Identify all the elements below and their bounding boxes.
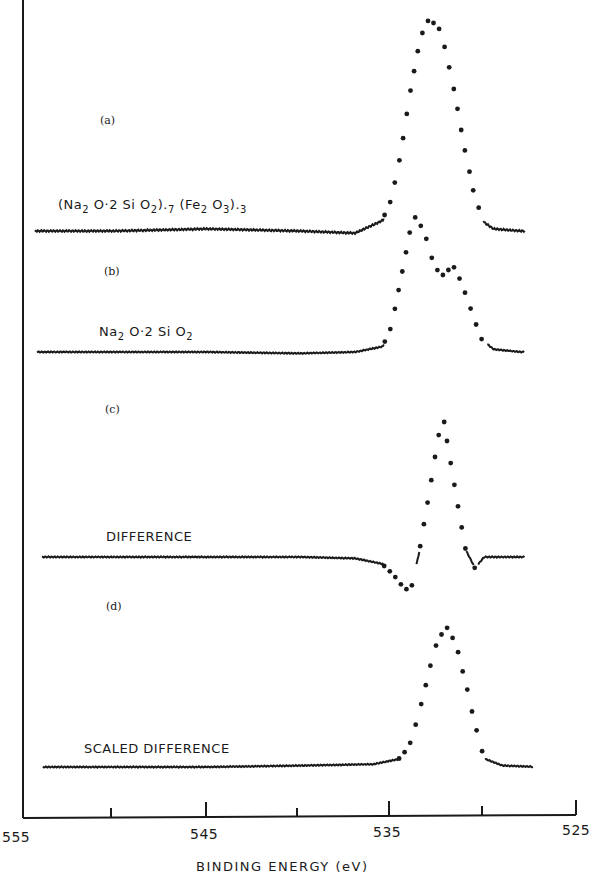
spectrum-data-point [470, 709, 475, 714]
spectrum-baseline [478, 556, 524, 564]
spectrum-data-point [382, 564, 387, 569]
spectrum-data-point [471, 188, 476, 193]
spectrum-data-point [474, 728, 479, 733]
x-tick-label-545: 545 [190, 826, 218, 842]
spectrum-data-point [445, 625, 450, 630]
spectra-traces [35, 19, 533, 768]
spectrum-baseline [35, 219, 384, 234]
spectrum-data-point [425, 500, 430, 505]
trace-label-b: Na2 O·2 Si O2 [99, 324, 193, 342]
spectrum-data-point [424, 236, 429, 241]
spectrum-data-point [439, 632, 444, 637]
trace-label-d: SCALED DIFFERENCE [84, 741, 230, 756]
spectrum-data-point [423, 683, 428, 688]
spectrum-data-point [436, 433, 441, 438]
formula-sub: 7 [168, 204, 175, 215]
spectrum-data-point [400, 269, 405, 274]
spectrum-baseline [466, 551, 473, 565]
spectrum-data-point [413, 722, 418, 727]
spectrum-data-point [442, 45, 447, 50]
spectrum-data-point [392, 180, 397, 185]
spectrum-data-point [410, 583, 415, 588]
spectrum-data-point [456, 504, 461, 509]
spectrum-data-point [433, 455, 438, 460]
spectrum-baseline [42, 556, 383, 564]
x-axis-line [23, 815, 576, 818]
trace-label-a: (Na2 O·2 Si O2).7 (Fe2 O3).3 [58, 197, 247, 215]
spectrum-data-point [402, 750, 407, 755]
spectrum-data-point [455, 106, 460, 111]
spectrum-data-point [472, 565, 477, 570]
spectrum-data-point [463, 290, 468, 295]
formula-part: ). [230, 197, 240, 212]
spectrum-data-point [452, 265, 457, 270]
formula-sub: 2 [186, 331, 193, 342]
spectrum-data-point [418, 223, 423, 228]
spectrum-data-point [397, 158, 402, 163]
formula-sub: 2 [118, 331, 125, 342]
spectrum-data-point [456, 650, 461, 655]
spectrum-data-point [437, 27, 442, 32]
formula-part: (Fe [175, 197, 201, 212]
formula-sub: 2 [151, 204, 158, 215]
spectrum-data-point [480, 749, 485, 754]
formula-part: ). [158, 197, 168, 212]
spectrum-data-point [393, 306, 398, 311]
spectrum-baseline [487, 344, 524, 352]
spectrum-data-point [399, 582, 404, 587]
spectrum-data-point [463, 148, 468, 153]
x-tick-label-525: 525 [562, 822, 590, 838]
spectrum-data-point [447, 65, 452, 70]
formula-sub: 3 [240, 204, 247, 215]
formula-part: O·2 Si O [89, 197, 151, 212]
spectrum-data-point [431, 21, 436, 26]
panel-label-a: (a) [100, 114, 115, 127]
spectrum-data-point [404, 112, 409, 117]
x-tick-label-555: 555 [2, 829, 30, 845]
spectrum-data-point [448, 461, 453, 466]
formula-part: O·2 Si O [125, 324, 187, 339]
spectrum-data-point [474, 322, 479, 327]
spectrum-data-point [467, 169, 472, 174]
formula-part: Na [99, 324, 118, 339]
spectrum-data-point [459, 525, 464, 530]
panel-label-d: (d) [106, 600, 122, 613]
spectrum-data-point [451, 87, 456, 92]
spectrum-data-point [426, 19, 431, 24]
spectrum-baseline [43, 759, 398, 767]
formula-sub: 2 [201, 204, 208, 215]
spectrum-baseline [37, 345, 384, 354]
spectrum-data-point [452, 482, 457, 487]
spectrum-data-point [418, 544, 423, 549]
spectrum-data-point [435, 268, 440, 273]
spectrum-data-point [388, 327, 393, 332]
spectrum-data-point [407, 230, 412, 235]
spectrum-data-point [459, 128, 464, 133]
spectrum-data-point [382, 213, 387, 218]
spectrum-data-point [463, 546, 468, 551]
spectrum-data-point [401, 136, 406, 141]
formula-sub: 3 [223, 204, 230, 215]
formula-part: (Na [58, 197, 82, 212]
spectrum-data-point [429, 255, 434, 260]
spectrum-data-point [476, 205, 481, 210]
spectrum-data-point [396, 288, 401, 293]
spectrum-data-point [408, 88, 413, 93]
spectrum-data-point [404, 587, 409, 592]
spectrum-baseline [483, 221, 525, 232]
spectrum-data-point [429, 478, 434, 483]
spectrum-data-point [446, 268, 451, 273]
spectrum-data-point [413, 215, 418, 220]
panel-label-b: (b) [104, 265, 120, 278]
spectrum-data-point [408, 740, 413, 745]
spectrum-data-point [422, 522, 427, 527]
spectrum-data-point [450, 636, 455, 641]
spectrum-data-point [428, 663, 433, 668]
spectrum-data-point [460, 669, 465, 674]
spectrum-data-point [479, 337, 484, 342]
trace-label-c: DIFFERENCE [106, 529, 192, 544]
formula-part: O [208, 197, 223, 212]
spectrum-data-point [457, 276, 462, 281]
spectrum-baseline [485, 759, 533, 767]
spectrum-data-point [393, 575, 398, 580]
